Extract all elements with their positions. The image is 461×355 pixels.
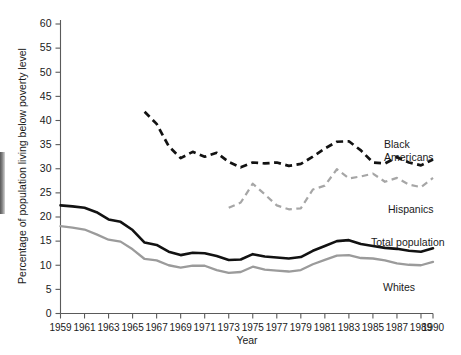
x-axis-tick-label: 1990 (422, 322, 445, 333)
x-axis-tick-label: 1961 (73, 322, 96, 333)
chart-canvas: 051015202530354045505560 195919611963196… (0, 0, 461, 355)
y-axis-tick-label: 55 (40, 41, 52, 53)
series-lines (61, 112, 434, 273)
x-axis-tick-label: 1977 (266, 322, 289, 333)
series-label-black-americans-line1: Black (384, 138, 410, 150)
y-axis-tick-label: 40 (40, 114, 52, 126)
y-axis-tick-label: 35 (40, 138, 52, 150)
y-axis-tick-label: 5 (46, 283, 52, 295)
y-axis-tick-label: 15 (40, 234, 52, 246)
series-line-whites (61, 226, 434, 273)
series-label-black-americans-line2: Americans (384, 151, 434, 163)
x-axis-tick-label: 1983 (338, 322, 361, 333)
y-axis-tick-label: 25 (40, 186, 52, 198)
x-axis-tick-label: 1987 (386, 322, 409, 333)
x-axis-tick-label: 1985 (362, 322, 385, 333)
y-axis-tick-label: 0 (46, 307, 52, 319)
x-axis-tick-label: 1969 (170, 322, 193, 333)
x-axis-tick-label: 1967 (146, 322, 169, 333)
y-axis-tick-label: 10 (40, 259, 52, 271)
series-line-total-population (61, 205, 434, 260)
series-label-whites: Whites (383, 281, 415, 293)
y-axis-tick-label: 60 (40, 17, 52, 29)
series-labels: Black Americans Hispanics Total populati… (371, 138, 445, 293)
series-label-total-population: Total population (371, 236, 445, 248)
x-axis-tick-label: 1971 (194, 322, 217, 333)
y-axis-ticks: 051015202530354045505560 (40, 17, 61, 319)
x-axis-tick-label: 1979 (290, 322, 313, 333)
y-axis-tick-label: 20 (40, 210, 52, 222)
x-axis-tick-label: 1981 (314, 322, 337, 333)
x-axis-tick-label: 1965 (121, 322, 144, 333)
x-axis-tick-label: 1973 (218, 322, 241, 333)
scan-edge-artifact (0, 152, 5, 214)
y-axis-tick-label: 30 (40, 162, 52, 174)
poverty-rate-chart: 051015202530354045505560 195919611963196… (0, 0, 461, 355)
y-axis-tick-label: 50 (40, 66, 52, 78)
x-axis-tick-label: 1959 (49, 322, 72, 333)
x-axis-tick-label: 1963 (97, 322, 120, 333)
series-label-hispanics: Hispanics (388, 203, 434, 215)
x-axis-ticks: 1959196119631965196719691971197319751977… (49, 314, 444, 333)
x-axis-title: Year (236, 334, 258, 346)
y-axis-title: Percentage of population living below po… (16, 48, 28, 284)
y-axis-tick-label: 45 (40, 90, 52, 102)
x-axis-tick-label: 1975 (242, 322, 265, 333)
